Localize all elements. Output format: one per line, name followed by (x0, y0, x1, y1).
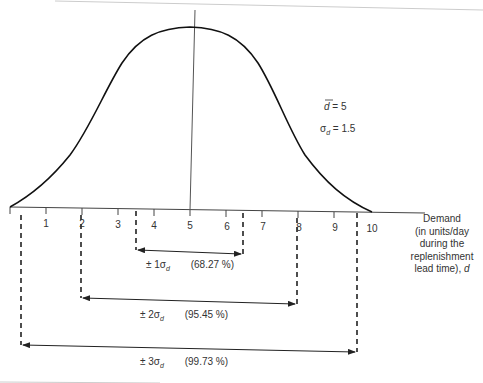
x-axis-title: Demand (in units/day during the replenis… (406, 213, 478, 276)
scan-edge-top (55, 1, 483, 10)
tick-label-10: 10 (366, 223, 377, 234)
arrow-1-sigma (138, 250, 241, 254)
tick-label-3: 3 (115, 219, 121, 230)
mean-symbol: d (324, 101, 330, 112)
band-percent: (68.27 %) (191, 259, 234, 270)
tick-label-4: 4 (151, 220, 157, 231)
band-label-3-sigma: ± 3σd (99.73 %) (140, 356, 228, 369)
sigma-drop-lines (21, 211, 357, 352)
band-percent: (95.45 %) (185, 309, 228, 320)
normal-distribution-plot (0, 0, 483, 383)
band-prefix: ± 3σ (140, 356, 160, 367)
axis-title-line: during the (406, 238, 478, 251)
band-prefix: ± 2σ (140, 309, 160, 320)
tick-label-5: 5 (187, 220, 193, 231)
axis-title-line: (in units/day (406, 226, 478, 239)
arrow-3-sigma (23, 345, 355, 352)
sigma-value: = 1.5 (333, 123, 356, 134)
axis-title-line: Demand (406, 213, 478, 226)
tick-label-6: 6 (224, 221, 230, 232)
band-percent: (99.73 %) (185, 356, 228, 367)
sigma-subscript: d (326, 129, 330, 136)
arrow-2-sigma (83, 298, 295, 304)
mean-line (190, 10, 195, 210)
axis-variable: d (464, 263, 470, 274)
tick-label-2: 2 (79, 218, 85, 229)
band-prefix: ± 1σ (146, 259, 166, 270)
band-subscript: d (160, 362, 164, 369)
band-label-1-sigma: ± 1σd (68.27 %) (146, 259, 234, 272)
sigma-parameter: σd = 1.5 (320, 123, 355, 136)
band-label-2-sigma: ± 2σd (95.45 %) (140, 309, 228, 322)
mean-parameter: d = 5 (324, 101, 347, 112)
axis-title-line: replenishment (406, 251, 478, 264)
tick-label-9: 9 (332, 222, 338, 233)
band-subscript: d (166, 265, 170, 272)
axis-title-line: lead time), d (406, 263, 478, 276)
tick-label-7: 7 (260, 221, 266, 232)
band-subscript: d (160, 315, 164, 322)
x-axis-ticks (10, 207, 334, 218)
tick-label-8: 8 (296, 222, 302, 233)
tick-label-1: 1 (43, 218, 49, 229)
mean-value: = 5 (332, 101, 346, 112)
